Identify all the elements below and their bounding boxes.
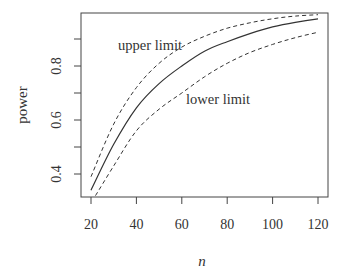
y-axis-title: power: [14, 86, 30, 124]
x-tick-label: 80: [220, 217, 234, 232]
x-tick-label: 100: [262, 217, 283, 232]
x-axis: 20406080100120: [84, 197, 329, 232]
y-tick-label: 0.4: [49, 165, 64, 183]
x-tick-label: 60: [175, 217, 189, 232]
x-tick-label: 120: [308, 217, 329, 232]
lower-limit-line: [96, 32, 319, 195]
x-axis-title: n: [198, 253, 206, 269]
x-tick-label: 40: [129, 217, 143, 232]
y-axis: 0.40.60.8: [49, 39, 81, 183]
power-curve-chart: 20406080100120 0.40.60.8 upper limit low…: [0, 0, 344, 280]
x-tick-label: 20: [84, 217, 98, 232]
lower-limit-annotation: lower limit: [186, 91, 250, 107]
y-tick-label: 0.8: [49, 57, 64, 75]
y-tick-label: 0.6: [49, 111, 64, 129]
upper-limit-annotation: upper limit: [118, 37, 182, 53]
